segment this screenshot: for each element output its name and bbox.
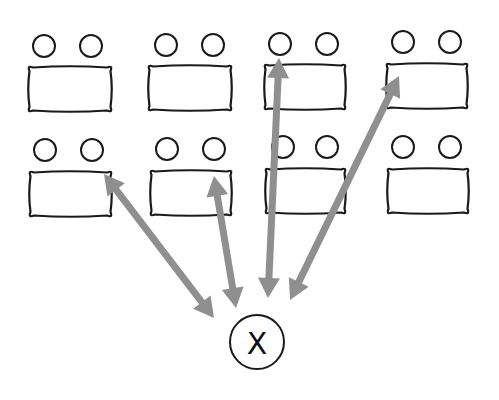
arrowhead-icon (206, 176, 228, 198)
arrow-shaft (297, 90, 392, 285)
table-desk (28, 66, 112, 112)
arrowhead-icon (222, 286, 244, 308)
seat-circle (439, 136, 461, 158)
teacher-label: X (247, 326, 268, 361)
table-desk (148, 65, 232, 111)
arrow-shaft (269, 74, 279, 282)
seat-circle (392, 31, 414, 53)
seat-circle (316, 33, 338, 55)
seat-circle (81, 139, 103, 161)
table-desk (29, 171, 112, 217)
table-group (29, 139, 112, 217)
seat-circle (202, 34, 224, 56)
table-group (148, 34, 232, 111)
teacher: X (230, 315, 284, 369)
table-desk (387, 168, 469, 214)
seat-circle (33, 35, 55, 57)
seat-circle (392, 136, 414, 158)
seat-circle (203, 138, 225, 160)
interaction-arrow (104, 174, 214, 318)
seat-circle (155, 34, 177, 56)
classroom-diagram: X (0, 0, 499, 400)
arrowhead-icon (258, 278, 280, 298)
seat-circle (156, 138, 178, 160)
seat-circle (439, 31, 461, 53)
table-group (28, 35, 112, 112)
seat-circle (316, 136, 338, 158)
arrowhead-icon (267, 58, 289, 78)
table-group (387, 136, 469, 214)
seat-circle (34, 139, 56, 161)
interaction-arrow (206, 176, 243, 308)
seat-circle (269, 33, 291, 55)
seat-circle (80, 35, 102, 57)
arrow-shaft (114, 187, 205, 306)
tables-layer (28, 31, 469, 217)
interaction-arrow (258, 58, 289, 298)
